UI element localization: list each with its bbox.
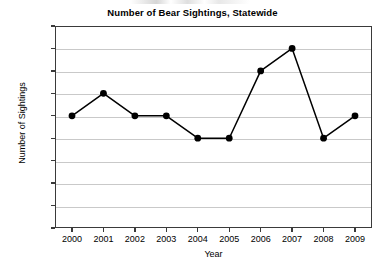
x-tick-mark — [323, 228, 324, 232]
x-tick-mark — [229, 228, 230, 232]
x-tick-label: 2009 — [333, 234, 377, 244]
y-tick-mark — [51, 48, 55, 49]
y-axis-label: Number of Sightings — [17, 48, 27, 198]
x-tick-mark — [354, 228, 355, 232]
y-tick-mark — [51, 25, 55, 26]
scan-artifact — [130, 0, 250, 4]
x-axis-label: Year — [55, 249, 372, 259]
gridline — [56, 94, 371, 95]
gridline — [56, 207, 371, 208]
gridline — [56, 184, 371, 185]
bear-sightings-line-chart: Number of Bear Sightings, Statewide Numb… — [0, 0, 385, 270]
gridline — [56, 162, 371, 163]
gridline — [56, 117, 371, 118]
gridline — [56, 72, 371, 73]
y-tick-mark — [51, 115, 55, 116]
x-tick-mark — [260, 228, 261, 232]
x-tick-mark — [166, 228, 167, 232]
y-tick-mark — [51, 93, 55, 94]
y-tick-mark — [51, 160, 55, 161]
x-tick-mark — [197, 228, 198, 232]
gridline — [56, 139, 371, 140]
y-tick-mark — [51, 227, 55, 228]
x-tick-mark — [103, 228, 104, 232]
y-tick-mark — [51, 182, 55, 183]
y-tick-mark — [51, 138, 55, 139]
x-tick-mark — [291, 228, 292, 232]
y-tick-mark — [51, 70, 55, 71]
chart-title: Number of Bear Sightings, Statewide — [0, 7, 385, 18]
y-tick-mark — [51, 205, 55, 206]
plot-area — [55, 26, 372, 228]
x-tick-mark — [134, 228, 135, 232]
gridline — [56, 49, 371, 50]
x-tick-mark — [71, 228, 72, 232]
